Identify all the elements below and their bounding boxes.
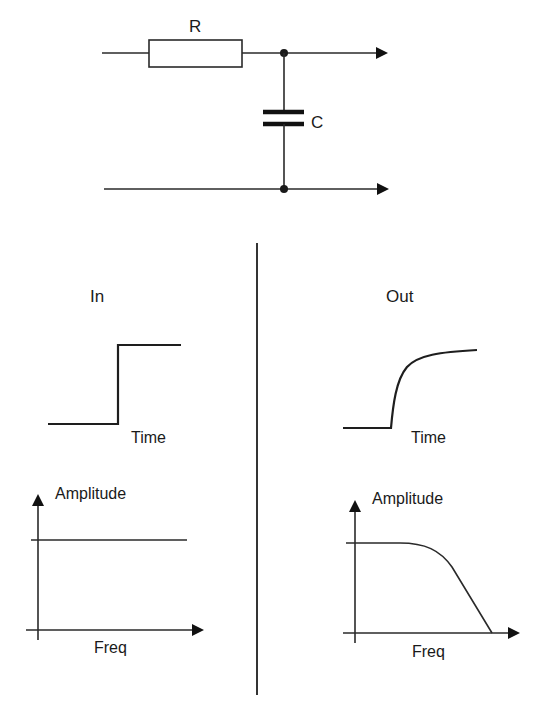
output-freq-label: Freq (412, 643, 445, 660)
output-top-arrow-icon (376, 47, 388, 59)
output-time-label: Time (411, 429, 446, 446)
output-heading: Out (386, 287, 414, 306)
output-x-axis-arrow-icon (508, 627, 520, 639)
output-amplitude-label: Amplitude (372, 490, 443, 507)
capacitor-label: C (311, 113, 323, 132)
input-heading: In (90, 287, 104, 306)
rc-lowpass-diagram: R C In Time Amplitude Freq Out (0, 0, 551, 712)
input-amplitude-label: Amplitude (55, 485, 126, 502)
input-x-axis-arrow-icon (192, 624, 204, 636)
input-freq-label: Freq (94, 639, 127, 656)
output-rolloff-response (346, 543, 492, 633)
output-panel: Out Time Amplitude Freq (343, 287, 520, 660)
output-bottom-arrow-icon (377, 183, 389, 195)
junction-bottom (280, 185, 288, 193)
input-y-axis-arrow-icon (32, 494, 44, 506)
circuit-schematic: R C (102, 17, 389, 195)
resistor-label: R (189, 17, 201, 36)
resistor-symbol (149, 40, 242, 67)
input-time-label: Time (131, 429, 166, 446)
output-y-axis-arrow-icon (349, 500, 361, 512)
input-panel: In Time Amplitude Freq (26, 287, 204, 656)
input-step-waveform (48, 345, 181, 424)
output-exponential-waveform (343, 350, 477, 428)
